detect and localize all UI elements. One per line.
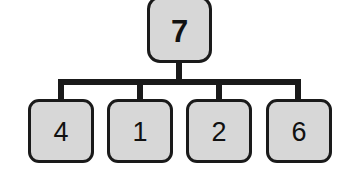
tree-node-root: 7 [147,0,212,63]
tree-node-child-3: 2 [186,99,252,163]
tree-node-child-1: 4 [28,99,94,163]
tree-node-child-2: 1 [107,99,173,163]
tree-node-child-1-label: 4 [53,119,68,146]
tree-node-child-3-label: 2 [211,119,226,146]
tree-node-child-4-label: 6 [291,119,306,146]
tree-node-child-2-label: 1 [132,119,147,146]
tree-node-child-4: 6 [266,99,332,163]
edge-horizontal-bus [58,79,301,85]
tree-node-root-label: 7 [171,16,188,47]
edge-root-to-bus [176,60,182,81]
tree-diagram: 7 4 1 2 6 [0,0,355,170]
